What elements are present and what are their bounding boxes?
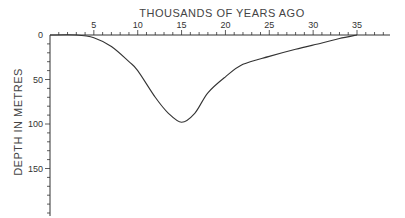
chart-canvas: THOUSANDS OF YEARS AGO 5101520253035 050… (0, 0, 405, 218)
x-tick-label: 10 (133, 20, 143, 30)
x-tick-label: 5 (91, 20, 96, 30)
y-tick-label: 50 (33, 75, 43, 85)
y-tick-label: 100 (28, 119, 43, 129)
y-tick-label: 150 (28, 164, 43, 174)
x-axis: 5101520253035 (50, 20, 390, 35)
x-tick-label: 30 (308, 20, 318, 30)
x-tick-label: 20 (220, 20, 230, 30)
y-axis: 050100150 (28, 30, 50, 216)
x-tick-label: 15 (177, 20, 187, 30)
x-axis-title: THOUSANDS OF YEARS AGO (139, 7, 304, 19)
sea-level-chart: THOUSANDS OF YEARS AGO 5101520253035 050… (0, 0, 405, 218)
depth-curve (50, 35, 357, 122)
y-tick-label: 0 (38, 30, 43, 40)
x-tick-label: 35 (352, 20, 362, 30)
y-axis-title: DEPTH IN METRES (12, 68, 24, 176)
x-tick-label: 25 (264, 20, 274, 30)
